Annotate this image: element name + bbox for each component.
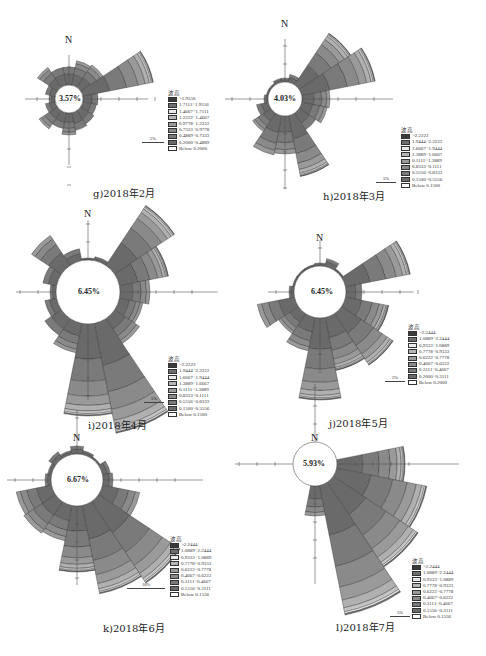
legend-swatch [168, 97, 177, 102]
legend-swatch [408, 337, 417, 342]
legend-swatch [408, 349, 417, 354]
rose-chart [243, 0, 486, 220]
legend-swatch [408, 368, 417, 373]
legend-item: Below 0.1500 [168, 412, 209, 418]
wind-rose-panel-apr: N 6.45% 波高>2.22221.9444~2.22221.6667~1.9… [0, 220, 243, 435]
north-label: N [65, 34, 72, 45]
legend-swatch [168, 140, 177, 145]
calm-percentage: 6.45% [72, 287, 106, 296]
panel-caption: j)2018年5月 [329, 415, 388, 430]
wind-rose-panel-feb: N 3.57% 波高>1.95561.7111~1.95561.4667~1.7… [0, 0, 243, 220]
north-label: N [281, 18, 288, 29]
legend: 波高>2.24441.0889~2.24440.9333~1.08890.777… [408, 324, 449, 386]
legend-swatch [168, 109, 177, 114]
legend-swatch [412, 577, 421, 582]
legend-swatch [168, 388, 177, 393]
legend-swatch [401, 159, 410, 164]
legend-swatch [170, 568, 179, 573]
legend-swatch [412, 583, 421, 588]
calm-percentage: 5.93% [297, 459, 331, 468]
legend-item: Below 0.2000 [168, 146, 209, 152]
legend-swatch [168, 400, 177, 405]
legend-swatch [168, 122, 177, 127]
legend-swatch [170, 549, 179, 554]
wind-rose-panel-jun: N 6.67% 波高>2.24441.0889~2.24440.9333~1.0… [0, 430, 243, 656]
legend-label: Below 0.2000 [419, 380, 447, 386]
legend-swatch [168, 146, 177, 151]
legend-swatch [412, 608, 421, 613]
legend-swatch [168, 406, 177, 411]
north-label: N [311, 432, 318, 443]
legend: 波高>2.22221.9444~2.22221.6667~1.94441.388… [168, 356, 209, 418]
legend-swatch [401, 177, 410, 182]
legend-swatch [412, 590, 421, 595]
calm-percentage: 4.03% [269, 94, 301, 103]
legend-swatch [170, 555, 179, 560]
legend-swatch [408, 362, 417, 367]
legend-swatch [168, 103, 177, 108]
legend-label: Below 0.1500 [412, 183, 440, 189]
legend-label: Below 0.1500 [179, 412, 207, 418]
wind-rose-panel-jul: N 5.93% 波高>2.24441.0889~2.24440.9333~1.0… [243, 430, 486, 656]
legend-swatch [168, 394, 177, 399]
legend-swatch [401, 183, 410, 188]
legend-swatch [168, 363, 177, 368]
legend-swatch [170, 592, 179, 597]
north-label: N [84, 208, 91, 219]
legend: 波高>1.95561.7111~1.95561.4667~1.71111.222… [168, 90, 209, 152]
legend-item: Below 0.1556 [412, 614, 453, 620]
legend-swatch [170, 580, 179, 585]
legend-swatch [408, 343, 417, 348]
legend-label: Below 0.1556 [181, 592, 209, 598]
legend-swatch [401, 165, 410, 170]
panel-caption: l)2018年7月 [336, 619, 395, 634]
legend-swatch [170, 561, 179, 566]
legend-item: Below 0.1500 [401, 183, 442, 189]
legend-swatch [412, 571, 421, 576]
calm-percentage: 3.57% [54, 94, 86, 103]
north-label: N [73, 432, 80, 443]
legend-swatch [401, 134, 410, 139]
legend-swatch [412, 565, 421, 570]
legend-swatch [401, 152, 410, 157]
legend-swatch [412, 614, 421, 619]
rose-chart [243, 220, 486, 435]
legend-swatch [168, 369, 177, 374]
legend-swatch [412, 596, 421, 601]
legend-swatch [168, 128, 177, 133]
legend: 波高>2.24441.0889~2.24440.9333~1.08890.777… [412, 558, 453, 620]
wind-rose-panel-may: N 6.45% 波高>2.24441.0889~2.24440.9333~1.0… [243, 220, 486, 435]
legend-swatch [408, 374, 417, 379]
legend-swatch [401, 140, 410, 145]
legend-label: Below 0.1556 [423, 614, 451, 620]
panel-caption: g)2018年2月 [93, 185, 155, 200]
legend: 波高>2.22221.9444~2.22221.6667~1.94441.388… [401, 127, 442, 189]
legend-swatch [168, 134, 177, 139]
legend-label: Below 0.2000 [179, 146, 207, 152]
legend-item: Below 0.1556 [170, 592, 211, 598]
north-label: N [316, 232, 323, 243]
legend-swatch [401, 171, 410, 176]
legend-swatch [170, 574, 179, 579]
legend: 波高>2.24441.0889~2.24440.9333~1.08890.777… [170, 536, 211, 598]
legend-item: Below 0.2000 [408, 380, 449, 386]
legend-swatch [168, 115, 177, 120]
legend-swatch [408, 380, 417, 385]
legend-swatch [412, 602, 421, 607]
panel-caption: k)2018年6月 [103, 620, 165, 635]
calm-percentage: 6.45% [305, 287, 339, 296]
legend-swatch [408, 331, 417, 336]
wind-rose-panel-mar: N 4.03% 波高>2.22221.9444~2.22221.6667~1.9… [243, 0, 486, 220]
legend-swatch [168, 412, 177, 417]
legend-swatch [168, 381, 177, 386]
calm-percentage: 6.67% [61, 475, 95, 484]
legend-swatch [168, 375, 177, 380]
legend-swatch [401, 146, 410, 151]
legend-swatch [170, 543, 179, 548]
legend-swatch [408, 356, 417, 361]
panel-caption: h)2018年3月 [323, 188, 385, 203]
legend-swatch [170, 586, 179, 591]
